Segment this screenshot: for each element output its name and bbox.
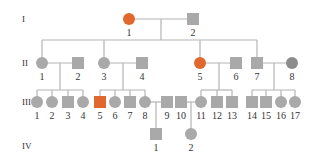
female-circle-icon xyxy=(123,13,135,25)
individual-ii-8: 8 xyxy=(286,57,298,82)
male-square-icon xyxy=(124,96,136,108)
individual-iii-14: 14 xyxy=(246,96,258,121)
individual-iii-10: 10 xyxy=(175,96,187,121)
generation-label: II xyxy=(22,58,28,68)
individual-ii-4: 4 xyxy=(136,57,148,82)
female-circle-icon xyxy=(46,96,58,108)
male-square-icon xyxy=(226,96,238,108)
individual-iii-7: 7 xyxy=(124,96,136,121)
individual-number: 1 xyxy=(35,110,40,121)
individual-i-2: 2 xyxy=(187,13,199,38)
individual-ii-3: 3 xyxy=(98,57,110,82)
individual-number: 7 xyxy=(128,110,133,121)
female-circle-icon xyxy=(286,57,298,69)
male-square-icon xyxy=(72,57,84,69)
individual-iii-3: 3 xyxy=(62,96,74,121)
individual-iii-4: 4 xyxy=(77,96,89,121)
individual-iii-12: 12 xyxy=(211,96,223,121)
individual-iii-8: 8 xyxy=(139,96,151,121)
individual-iii-2: 2 xyxy=(46,96,58,121)
individual-number: 12 xyxy=(212,110,222,121)
individual-ii-2: 2 xyxy=(72,57,84,82)
individual-number: 2 xyxy=(50,110,55,121)
individual-number: 8 xyxy=(143,110,148,121)
individual-iii-6: 6 xyxy=(109,96,121,121)
female-circle-icon xyxy=(98,57,110,69)
individual-ii-6: 6 xyxy=(230,57,242,82)
male-square-icon xyxy=(94,96,106,108)
generation-labels: IIIIIIIV xyxy=(22,14,32,151)
individual-number: 1 xyxy=(40,71,45,82)
individual-iii-13: 13 xyxy=(226,96,238,121)
individual-iii-1: 1 xyxy=(31,96,43,121)
individual-number: 5 xyxy=(98,110,103,121)
individual-iii-16: 16 xyxy=(275,96,287,121)
individual-number: 4 xyxy=(81,110,86,121)
individual-number: 7 xyxy=(255,71,260,82)
individual-number: 16 xyxy=(276,110,286,121)
individual-iii-15: 15 xyxy=(260,96,272,121)
male-square-icon xyxy=(150,128,162,140)
male-square-icon xyxy=(161,96,173,108)
male-square-icon xyxy=(230,57,242,69)
individual-number: 3 xyxy=(66,110,71,121)
individual-number: 1 xyxy=(154,142,159,153)
individual-number: 11 xyxy=(196,110,206,121)
pedigree-chart: IIIIIIIV 1212345678123456789101112131415… xyxy=(0,0,318,166)
female-circle-icon xyxy=(139,96,151,108)
individual-iii-17: 17 xyxy=(289,96,301,121)
individual-iii-11: 11 xyxy=(195,96,207,121)
male-square-icon xyxy=(260,96,272,108)
male-square-icon xyxy=(62,96,74,108)
individual-number: 4 xyxy=(140,71,145,82)
generation-label: IV xyxy=(22,141,32,151)
individual-number: 6 xyxy=(113,110,118,121)
individual-number: 10 xyxy=(176,110,186,121)
female-circle-icon xyxy=(289,96,301,108)
individual-iii-9: 9 xyxy=(161,96,173,121)
female-circle-icon xyxy=(185,128,197,140)
individual-number: 8 xyxy=(290,71,295,82)
individual-number: 6 xyxy=(234,71,239,82)
male-square-icon xyxy=(211,96,223,108)
male-square-icon xyxy=(251,57,263,69)
individual-number: 2 xyxy=(191,27,196,38)
individual-ii-7: 7 xyxy=(251,57,263,82)
female-circle-icon xyxy=(194,57,206,69)
male-square-icon xyxy=(175,96,187,108)
female-circle-icon xyxy=(77,96,89,108)
individuals: 1212345678123456789101112131415161712 xyxy=(31,13,301,153)
individual-number: 3 xyxy=(102,71,107,82)
individual-number: 15 xyxy=(261,110,271,121)
individual-iii-5: 5 xyxy=(94,96,106,121)
female-circle-icon xyxy=(195,96,207,108)
individual-i-1: 1 xyxy=(123,13,135,38)
individual-number: 9 xyxy=(165,110,170,121)
individual-iv-2: 2 xyxy=(185,128,197,153)
female-circle-icon xyxy=(275,96,287,108)
individual-number: 14 xyxy=(247,110,257,121)
female-circle-icon xyxy=(109,96,121,108)
individual-iv-1: 1 xyxy=(150,128,162,153)
individual-number: 1 xyxy=(127,27,132,38)
female-circle-icon xyxy=(36,57,48,69)
female-circle-icon xyxy=(31,96,43,108)
individual-ii-5: 5 xyxy=(194,57,206,82)
generation-label: III xyxy=(22,97,31,107)
male-square-icon xyxy=(187,13,199,25)
individual-number: 13 xyxy=(227,110,237,121)
individual-number: 17 xyxy=(290,110,300,121)
individual-ii-1: 1 xyxy=(36,57,48,82)
generation-label: I xyxy=(22,14,25,24)
individual-number: 2 xyxy=(189,142,194,153)
male-square-icon xyxy=(136,57,148,69)
male-square-icon xyxy=(246,96,258,108)
individual-number: 5 xyxy=(198,71,203,82)
individual-number: 2 xyxy=(76,71,81,82)
